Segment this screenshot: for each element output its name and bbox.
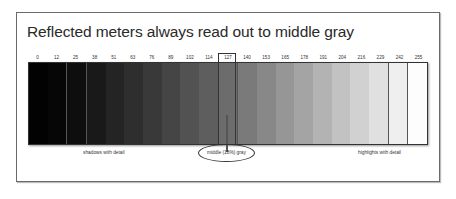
gray-swatch-102: [180, 63, 199, 144]
figure-title: Reflected meters always read out to midd…: [27, 23, 354, 41]
gray-swatch-63: [124, 63, 143, 144]
gray-swatch-51: [106, 63, 125, 144]
tick-label: 242: [390, 54, 409, 62]
gray-swatch-229: [369, 63, 388, 144]
gray-swatch-25: [66, 63, 86, 144]
gray-swatch-242: [388, 63, 408, 144]
tick-label: 191: [314, 54, 333, 62]
tick-label: 25: [66, 54, 85, 62]
gray-swatch-114: [199, 63, 218, 144]
highlights-caption: highlights with detail: [358, 150, 401, 155]
gray-swatch-216: [350, 63, 369, 144]
shadows-caption: shadows with detail: [83, 150, 125, 155]
tick-label: 51: [104, 54, 123, 62]
gray-swatch-204: [332, 63, 351, 144]
tick-label: 102: [180, 54, 199, 62]
tick-label: 63: [123, 54, 142, 62]
tick-label: 229: [371, 54, 390, 62]
tick-label: 0: [28, 54, 47, 62]
tick-label: 140: [238, 54, 257, 62]
tick-label: 178: [295, 54, 314, 62]
gray-swatch-191: [313, 63, 332, 144]
gray-swatch-0: [29, 63, 48, 144]
tick-label: 89: [161, 54, 180, 62]
gray-swatch-12: [48, 63, 67, 144]
tick-label: 153: [257, 54, 276, 62]
tick-label: 255: [409, 54, 428, 62]
tick-label: 12: [47, 54, 66, 62]
tick-label: 38: [85, 54, 104, 62]
gray-swatch-255: [407, 63, 427, 144]
gray-swatch-38: [86, 63, 106, 144]
gray-swatch-76: [143, 63, 162, 144]
gray-swatch-178: [294, 63, 313, 144]
tick-label: 165: [276, 54, 295, 62]
tick-label: 216: [352, 54, 371, 62]
tick-label: 76: [142, 54, 161, 62]
gray-swatch-165: [276, 63, 295, 144]
middle-gray-caption: middle (18%) gray: [207, 150, 246, 155]
gray-swatch-89: [162, 63, 181, 144]
gray-swatch-153: [257, 63, 276, 144]
tick-label: 114: [199, 54, 218, 62]
gray-swatch-140: [237, 63, 257, 144]
tick-label: 204: [333, 54, 352, 62]
